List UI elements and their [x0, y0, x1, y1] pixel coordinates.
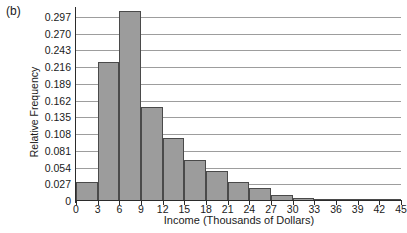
y-axis-tick-labels: 00.0270.0540.0810.1080.1350.1620.1890.21…: [26, 9, 71, 201]
y-axis-tick-label: 0.297: [45, 12, 71, 23]
histogram-bar: [184, 160, 206, 201]
y-axis-tick-label: 0.135: [45, 112, 71, 123]
y-axis-tick-label: 0.189: [45, 79, 71, 90]
y-axis-tick-label: 0.243: [45, 45, 71, 56]
histogram-bar: [141, 107, 163, 201]
plot-area: [76, 9, 401, 201]
y-axis-line: [75, 7, 76, 203]
y-axis-tick-label: 0.270: [45, 29, 71, 40]
y-axis-tick-label: 0: [65, 196, 71, 207]
y-axis-tick-label: 0.081: [45, 146, 71, 157]
histogram-bar: [228, 182, 250, 201]
y-axis-tick-label: 0.216: [45, 62, 71, 73]
histogram-bar: [206, 171, 228, 201]
y-axis-tick-label: 0.162: [45, 96, 71, 107]
histogram-bar: [119, 11, 141, 201]
histogram-bar: [76, 182, 98, 201]
x-axis-line: [75, 200, 402, 201]
y-axis-tick-label: 0.054: [45, 163, 71, 174]
histogram-bar: [98, 62, 120, 201]
histogram-bar: [163, 138, 185, 201]
x-axis-title: Income (Thousands of Dollars): [75, 214, 403, 226]
y-axis-tick-label: 0.027: [45, 179, 71, 190]
panel-label: (b): [6, 4, 21, 18]
y-axis-tick-label: 0.108: [45, 129, 71, 140]
